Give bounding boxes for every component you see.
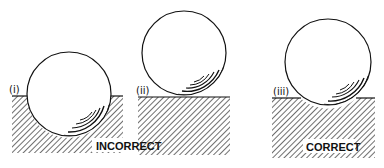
ball <box>285 19 371 105</box>
panel-label-ii: (ii) <box>136 85 149 96</box>
panel-label-iii: (iii) <box>273 86 289 97</box>
ball <box>142 11 226 95</box>
panel-iii: CORRECT (iii) <box>272 19 375 158</box>
contact-diagram: INCORRECT (i) (ii) CORRECT (iii) <box>0 0 384 168</box>
ground-hatch <box>138 97 230 155</box>
panel-ii: (ii) <box>136 11 230 155</box>
panel-label-i: (i) <box>9 84 20 95</box>
caption-correct: CORRECT <box>306 141 361 153</box>
ball <box>27 52 111 136</box>
